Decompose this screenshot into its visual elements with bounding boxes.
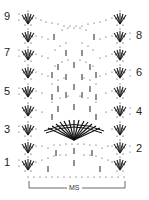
right-fans <box>114 10 126 171</box>
row-label-6: 6 <box>136 67 142 78</box>
row-label-2: 2 <box>136 143 142 154</box>
row-label-9: 9 <box>4 11 10 22</box>
stitch-bars <box>48 34 100 172</box>
row-label-5: 5 <box>4 86 10 97</box>
row-label-4: 4 <box>136 106 142 117</box>
row-label-8: 8 <box>136 30 142 41</box>
foundation-chain <box>27 176 124 177</box>
row-label-1: 1 <box>4 157 10 168</box>
repeat-label: MS <box>67 184 82 191</box>
left-fans <box>22 10 34 171</box>
row-label-7: 7 <box>4 47 10 58</box>
shell-fan <box>44 120 104 140</box>
crochet-chart <box>0 0 149 200</box>
row-label-3: 3 <box>4 124 10 135</box>
